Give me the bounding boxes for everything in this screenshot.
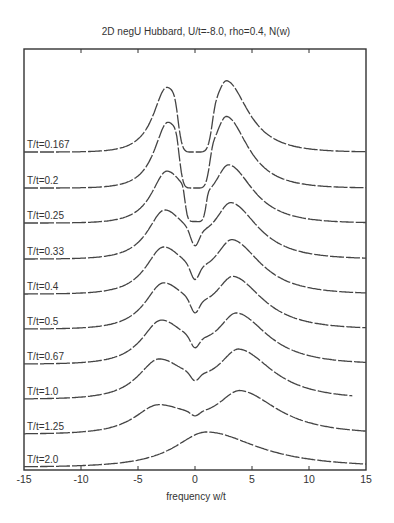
x-tick-label: 15 [360,473,372,485]
x-tick-label: -10 [73,473,88,485]
curve-t-t-1-0 [24,349,352,399]
x-tick-label: 5 [249,473,255,485]
x-tick-label: -15 [16,473,31,485]
curve-t-t-2-0 [24,432,366,467]
curve-label: T/t=1.25 [27,421,64,432]
curve-label: T/t=2.0 [27,454,59,465]
curves [24,81,366,467]
chart: 2D negU Hubbard, U/t=-8.0, rho=0.4, N(w)… [0,0,394,523]
curve-label: T/t=0.2 [27,175,59,186]
x-axis-label: frequency w/t [166,491,226,502]
curve-label: T/t=0.167 [27,139,70,150]
curve-label: T/t=0.33 [27,246,64,257]
curve-label: T/t=0.5 [27,316,59,327]
x-axis-ticks: -15-10-5051015 [16,49,372,485]
curve-t-t-0-167 [24,81,366,152]
plot-area-frame [24,49,366,470]
curve-label: T/t=0.25 [27,210,64,221]
curve-t-t-0-25 [24,165,366,223]
curve-t-t-0-33 [24,203,366,259]
x-tick-label: 0 [192,473,198,485]
x-tick-label: -5 [133,473,142,485]
curve-t-t-0-67 [24,313,366,364]
curve-label: T/t=1.0 [27,386,59,397]
curve-label: T/t=0.67 [27,351,64,362]
curve-label: T/t=0.4 [27,281,59,292]
x-tick-label: 10 [303,473,315,485]
curve-t-t-0-4 [24,240,366,294]
curve-t-t-0-5 [24,276,366,329]
chart-title: 2D negU Hubbard, U/t=-8.0, rho=0.4, N(w) [102,26,290,37]
